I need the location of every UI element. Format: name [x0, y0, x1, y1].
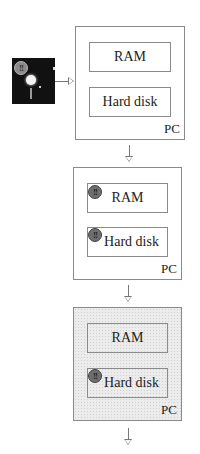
connector-line [55, 81, 68, 82]
pc-box-stage-1: RAM Hard disk PC [75, 26, 185, 140]
arrow-down-icon [124, 439, 132, 445]
virus-badge-icon: !! [88, 185, 102, 199]
floppy-slot [30, 88, 32, 99]
pc-box-stage-3: RAM Hard disk !! PC [73, 307, 182, 421]
pc-box-stage-2: RAM !! Hard disk !! PC [73, 167, 182, 280]
virus-badge-icon: !! [88, 228, 102, 242]
arrow-down-icon [124, 296, 132, 302]
hard-disk-label: Hard disk [104, 234, 159, 250]
arrow-down-icon [125, 156, 133, 162]
pc-label: PC [161, 402, 177, 418]
ram-box: RAM [87, 323, 168, 353]
floppy-notch [53, 67, 55, 70]
floppy-disk: !! [12, 58, 55, 104]
hard-disk-label: Hard disk [103, 94, 158, 110]
virus-badge-icon: !! [88, 369, 102, 383]
pc-label: PC [164, 121, 180, 137]
ram-label: RAM [112, 330, 144, 346]
arrow-right-icon [68, 77, 74, 85]
floppy-hub [26, 75, 36, 85]
virus-badge-icon: !! [14, 61, 28, 75]
ram-label: RAM [112, 190, 144, 206]
pc-label: PC [161, 261, 177, 277]
ram-label: RAM [114, 49, 146, 65]
hard-disk-box: Hard disk [89, 87, 171, 117]
hard-disk-label: Hard disk [104, 375, 159, 391]
floppy-dot [39, 86, 41, 88]
ram-box: RAM [89, 42, 171, 72]
